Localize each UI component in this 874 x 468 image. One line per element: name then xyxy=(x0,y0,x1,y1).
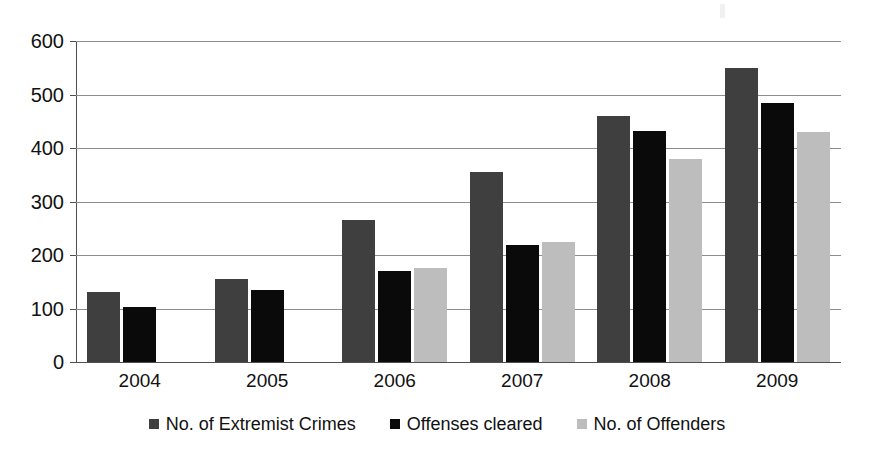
x-axis-label-2008: 2008 xyxy=(629,370,671,392)
y-axis-label-200: 200 xyxy=(31,245,64,265)
gridline-0 xyxy=(76,362,841,363)
x-axis-label-2005: 2005 xyxy=(246,370,288,392)
bar-2004-series-1 xyxy=(123,307,156,362)
bar-2009-series-1 xyxy=(761,103,794,362)
bars-layer xyxy=(76,41,841,362)
bar-2008-series-0 xyxy=(597,116,630,362)
legend-swatch-icon-2 xyxy=(577,419,587,429)
x-axis-label-2004: 2004 xyxy=(119,370,161,392)
plot-area: 0100200300400500600 xyxy=(76,41,841,363)
y-axis-label-400: 400 xyxy=(31,138,64,158)
legend-swatch-icon-1 xyxy=(390,419,400,429)
bar-2007-series-0 xyxy=(470,172,503,362)
bar-chart: 0100200300400500600 20042005200620072008… xyxy=(0,0,874,468)
x-axis-label-2007: 2007 xyxy=(501,370,543,392)
bar-2008-series-1 xyxy=(633,131,666,362)
bar-2004-series-0 xyxy=(87,292,120,362)
bar-2006-series-2 xyxy=(414,268,447,362)
bar-2009-series-2 xyxy=(797,132,830,362)
y-tick-0 xyxy=(70,362,76,363)
bar-2008-series-2 xyxy=(669,159,702,362)
legend-swatch-icon-0 xyxy=(149,419,159,429)
y-axis-label-600: 600 xyxy=(31,31,64,51)
y-axis-label-0: 0 xyxy=(53,352,64,372)
y-axis-label-300: 300 xyxy=(31,192,64,212)
bar-2006-series-1 xyxy=(378,271,411,362)
x-axis-labels: 200420052006200720082009 xyxy=(76,370,841,396)
bar-2006-series-0 xyxy=(342,220,375,362)
legend-label-2: No. of Offenders xyxy=(594,414,726,434)
legend-label-0: No. of Extremist Crimes xyxy=(166,414,356,434)
legend-item-2[interactable]: No. of Offenders xyxy=(577,414,726,434)
bar-2007-series-2 xyxy=(542,242,575,362)
scan-artifact xyxy=(720,4,725,18)
bar-2005-series-0 xyxy=(215,279,248,362)
bar-2007-series-1 xyxy=(506,245,539,362)
x-axis-label-2009: 2009 xyxy=(756,370,798,392)
y-axis-label-100: 100 xyxy=(31,299,64,319)
legend-item-0[interactable]: No. of Extremist Crimes xyxy=(149,414,356,434)
y-axis-label-500: 500 xyxy=(31,85,64,105)
legend-label-1: Offenses cleared xyxy=(407,414,543,434)
chart-legend: No. of Extremist CrimesOffenses clearedN… xyxy=(0,414,874,434)
legend-item-1[interactable]: Offenses cleared xyxy=(390,414,543,434)
bar-2009-series-0 xyxy=(725,68,758,362)
x-axis-label-2006: 2006 xyxy=(374,370,416,392)
bar-2005-series-1 xyxy=(251,290,284,362)
